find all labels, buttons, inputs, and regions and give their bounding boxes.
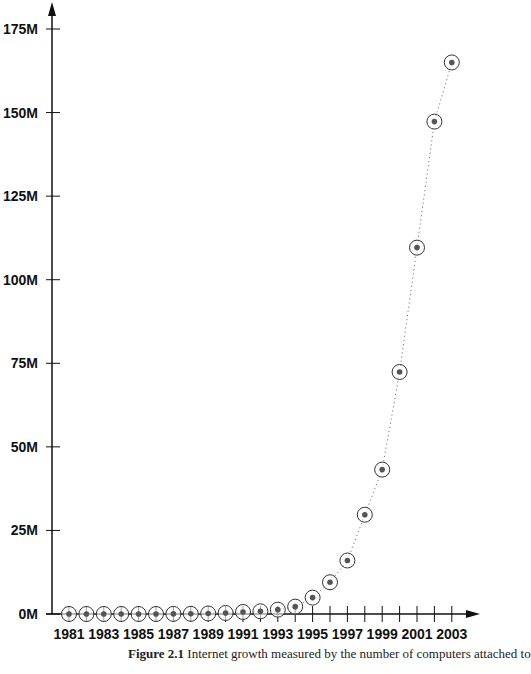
y-tick-label: 175M [3,21,38,37]
x-tick-label: 1983 [88,626,119,642]
data-point-marker [236,604,251,619]
x-tick-label: 1999 [367,626,398,642]
y-tick-label: 0M [19,606,38,622]
x-tick-label: 1989 [193,626,224,642]
y-tick-label: 75M [11,355,38,371]
data-point-marker [392,364,407,379]
x-tick-label: 1985 [123,626,154,642]
x-tick-label: 2003 [436,626,467,642]
x-tick-label: 1997 [332,626,363,642]
data-point-marker [323,575,338,590]
data-point-marker [62,606,77,621]
y-axis: 0M25M50M75M100M125M150M175M [3,2,60,622]
data-point-marker [149,606,164,621]
data-point-marker [444,55,459,70]
data-point-marker [357,507,372,522]
data-point-marker [79,606,94,621]
data-point-marker [427,114,442,129]
data-point-marker [340,553,355,568]
y-tick-label: 50M [11,439,38,455]
x-tick-label: 1995 [297,626,328,642]
data-point-marker [96,606,111,621]
x-tick-label: 1991 [227,626,258,642]
y-tick-label: 125M [3,188,38,204]
data-point-marker [270,602,285,617]
caption-text: Internet growth measured by the number o… [184,646,531,661]
data-point-marker [375,462,390,477]
data-point-marker [183,606,198,621]
x-tick-label: 1993 [262,626,293,642]
figure-label: Figure 2.1 [128,646,184,661]
data-point-marker [305,590,320,605]
data-point-marker [131,606,146,621]
x-tick-label: 1981 [53,626,84,642]
x-tick-label: 1987 [158,626,189,642]
data-point-marker [114,606,129,621]
data-point-marker [166,606,181,621]
data-point-marker [218,605,233,620]
x-tick-label: 2001 [401,626,432,642]
data-point-marker [201,606,216,621]
series-line [69,62,452,614]
y-tick-label: 100M [3,272,38,288]
data-markers [62,55,460,622]
y-tick-label: 150M [3,105,38,121]
data-point-marker [253,604,268,619]
data-point-marker [410,240,425,255]
y-tick-label: 25M [11,522,38,538]
figure-caption: Figure 2.1 Internet growth measured by t… [128,646,482,662]
data-point-marker [288,599,303,614]
